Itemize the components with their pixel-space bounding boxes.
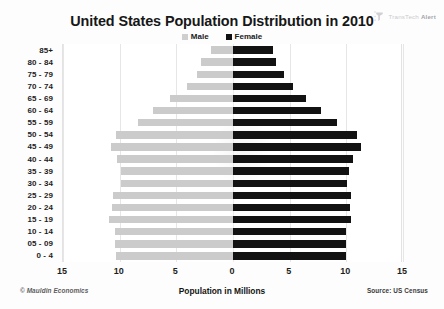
bar-row (63, 167, 401, 174)
bar-row (63, 71, 401, 78)
bar-row (63, 240, 401, 247)
bar-female (233, 119, 337, 126)
x-axis-tick-label: 5 (286, 266, 291, 276)
bar-row (63, 46, 401, 53)
x-axis-tick-label: 10 (114, 266, 124, 276)
y-axis-tick-label: 45 - 49 (0, 143, 58, 150)
bar-male (112, 204, 233, 211)
bar-male (113, 192, 233, 199)
y-axis-tick-label: 80 - 84 (0, 58, 58, 65)
y-axis-tick-label: 70 - 74 (0, 83, 58, 90)
bar-female (233, 228, 346, 235)
y-axis-tick-label: 30 - 34 (0, 180, 58, 187)
bar-row (63, 192, 401, 199)
bar-male (201, 58, 233, 65)
x-axis-tick-label: 15 (57, 266, 67, 276)
bar-male (211, 46, 233, 53)
y-axis-tick-label: 85+ (0, 46, 58, 53)
y-axis-tick-label: 20 - 24 (0, 204, 58, 211)
chart-credit: © Mauldin Economics (20, 287, 88, 294)
chart-source: Source: US Census (367, 287, 428, 294)
bar-male (197, 71, 233, 78)
bar-female (233, 46, 273, 53)
bar-row (63, 83, 401, 90)
bar-row (63, 216, 401, 223)
legend-label-male: Male (191, 32, 209, 41)
bar-male (121, 167, 233, 174)
bar-male (115, 228, 233, 235)
bar-male (116, 252, 233, 259)
bar-row (63, 228, 401, 235)
bar-rows (63, 44, 401, 262)
y-axis-tick-label: 25 - 29 (0, 192, 58, 199)
bar-female (233, 71, 284, 78)
legend-swatch-female-icon (226, 34, 232, 40)
chart-legend: Male Female (0, 32, 444, 41)
bar-female (233, 155, 353, 162)
bar-female (233, 143, 361, 150)
bar-female (233, 83, 293, 90)
y-axis-tick-label: 15 - 19 (0, 216, 58, 223)
bar-row (63, 204, 401, 211)
x-axis-tick-label: 5 (173, 266, 178, 276)
bar-male (111, 143, 233, 150)
bar-row (63, 155, 401, 162)
bar-male (109, 216, 233, 223)
y-axis-tick-label: 50 - 54 (0, 131, 58, 138)
y-axis-tick-label: 65 - 69 (0, 95, 58, 102)
bar-row (63, 107, 401, 114)
x-axis-tick-label: 0 (229, 266, 234, 276)
x-axis-tick-label: 10 (340, 266, 350, 276)
bar-row (63, 252, 401, 259)
bar-row (63, 131, 401, 138)
bar-male (170, 95, 233, 102)
bar-row (63, 180, 401, 187)
y-axis-tick-label: 0 - 4 (0, 252, 58, 259)
bar-row (63, 58, 401, 65)
plot-frame (62, 44, 402, 262)
bar-female (233, 204, 350, 211)
bar-row (63, 95, 401, 102)
legend-swatch-male-icon (182, 34, 188, 40)
bar-male (138, 119, 233, 126)
y-axis-tick-label: 55 - 59 (0, 119, 58, 126)
bar-male (116, 131, 233, 138)
x-axis-tick-label: 15 (397, 266, 407, 276)
bar-male (153, 107, 233, 114)
bar-female (233, 95, 306, 102)
y-axis-tick-label: 40 - 44 (0, 155, 58, 162)
bar-female (233, 240, 346, 247)
legend-item-female: Female (226, 32, 263, 41)
legend-item-male: Male (182, 32, 209, 41)
y-axis-labels: 85+80 - 8475 - 7970 - 7465 - 6960 - 6455… (0, 44, 58, 262)
bar-male (121, 180, 233, 187)
bar-female (233, 252, 346, 259)
bar-row (63, 119, 401, 126)
bar-female (233, 131, 357, 138)
bar-male (115, 240, 233, 247)
bar-female (233, 180, 347, 187)
y-axis-tick-label: 10 - 14 (0, 228, 58, 235)
bar-female (233, 167, 349, 174)
bar-male (117, 155, 233, 162)
chart-page: TransTech Alert United States Population… (0, 0, 444, 309)
legend-label-female: Female (235, 32, 263, 41)
y-axis-tick-label: 75 - 79 (0, 71, 58, 78)
y-axis-tick-label: 35 - 39 (0, 167, 58, 174)
y-axis-tick-label: 60 - 64 (0, 107, 58, 114)
chart-title: United States Population Distribution in… (0, 13, 444, 29)
bar-female (233, 58, 276, 65)
bar-female (233, 192, 351, 199)
bar-female (233, 216, 351, 223)
plot-area (62, 44, 402, 262)
gridline (403, 44, 404, 262)
x-axis-labels: 15105051015 (62, 266, 402, 280)
bar-male (187, 83, 233, 90)
bar-row (63, 143, 401, 150)
bar-female (233, 107, 321, 114)
y-axis-tick-label: 05 - 09 (0, 240, 58, 247)
